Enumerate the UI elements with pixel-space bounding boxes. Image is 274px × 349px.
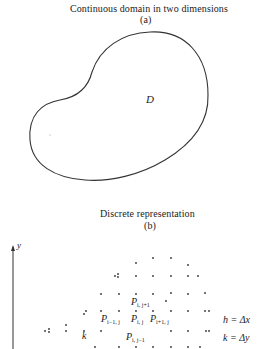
spacing-label-k: k	[82, 330, 86, 341]
equation-k: k = Δy	[223, 332, 250, 343]
continuous-domain-boundary	[30, 32, 208, 180]
point-label-iminus1-j: Pi−1, j	[101, 313, 120, 325]
y-axis-arrow-icon	[11, 245, 15, 251]
point-label-i-jminus1: Pi, j−1	[126, 331, 145, 343]
region-label-d: D	[146, 93, 154, 105]
point-label-iplus1-j: Pi+1, j	[150, 313, 169, 325]
panel-b-sublabel: (b)	[144, 220, 156, 231]
point-label-i-jplus1: Pi, j+1	[131, 296, 150, 308]
equation-h: h = Δx	[223, 314, 250, 325]
panel-b-title: Discrete representation	[100, 208, 195, 219]
y-axis-label: y	[17, 240, 21, 250]
point-label-i-j: Pi, j	[131, 313, 143, 325]
